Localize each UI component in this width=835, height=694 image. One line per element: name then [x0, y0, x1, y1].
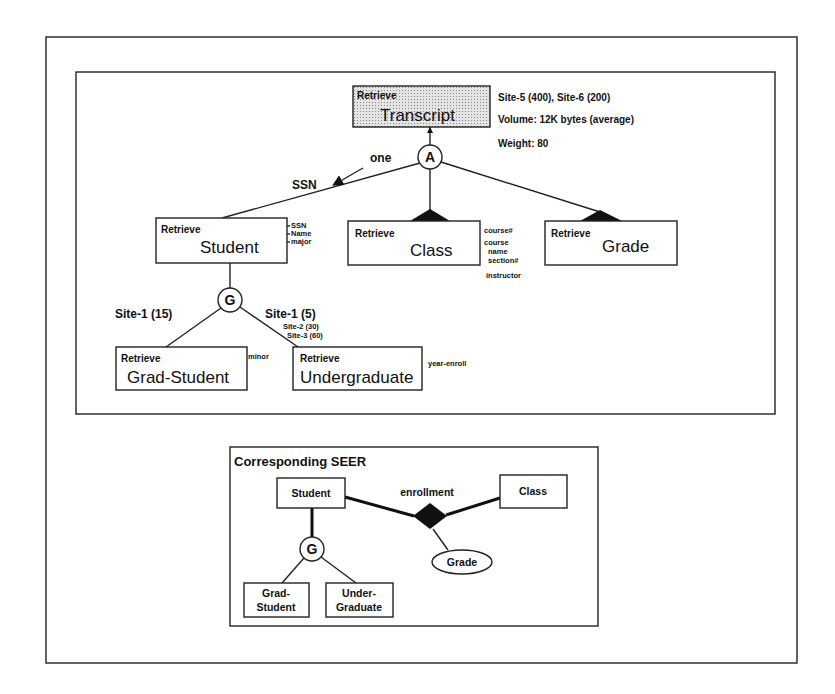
aggregation-symbol: A [425, 149, 435, 165]
student-name: Student [200, 238, 259, 257]
seer-class-label: Class [519, 485, 547, 497]
student-attr-major: major [291, 237, 312, 246]
grade-action: Retrieve [551, 228, 591, 239]
diagram-canvas: Retrieve Transcript Site-5 (400), Site-6… [0, 0, 835, 694]
undergraduate-action: Retrieve [300, 353, 340, 364]
class-attr-course-num: course# [484, 226, 514, 235]
seer-student-label: Student [291, 487, 331, 499]
enrollment-relationship-diamond [413, 503, 447, 529]
class-attr-course: course [484, 238, 509, 247]
seer-under-line2: Graduate [336, 601, 382, 613]
enrollment-to-class-line [446, 498, 500, 515]
grade-cardinality-triangle-icon [580, 210, 622, 221]
aggregation-to-student-line [222, 163, 420, 218]
undergrad-site-label: Site-1 (5) [265, 307, 316, 321]
seer-title: Corresponding SEER [234, 454, 367, 469]
seer-grad-line1: Grad- [262, 587, 291, 599]
grad-student-name: Grad-Student [127, 368, 229, 387]
student-to-enrollment-line [345, 497, 414, 516]
undergraduate-attr-year-enroll: year-enroll [428, 359, 466, 368]
class-attr-instructor: instructor [486, 271, 521, 280]
generalization-symbol: G [225, 292, 236, 308]
student-action: Retrieve [161, 224, 201, 235]
class-attr-section: section# [488, 256, 519, 265]
ssn-arrow-icon [337, 168, 363, 183]
relationship-label: enrollment [400, 486, 454, 498]
class-action: Retrieve [355, 228, 395, 239]
aggregation-label: one [370, 151, 392, 165]
key-label: SSN [292, 178, 317, 192]
class-attr-name: name [488, 247, 508, 256]
grade-attribute-label: Grade [447, 556, 478, 568]
generalization-to-grad-line [166, 308, 221, 347]
aggregation-to-grade-line [441, 162, 600, 212]
seer-under-line1: Under- [342, 587, 376, 599]
enrollment-to-grade-line [433, 529, 448, 550]
undergrad-site-2: Site-2 (30) [283, 322, 319, 331]
grade-name: Grade [602, 237, 649, 256]
transcript-name: Transcript [380, 106, 455, 125]
seer-generalization-to-grad-line [282, 558, 304, 583]
grad-site-label: Site-1 (15) [115, 307, 172, 321]
undergraduate-name: Undergraduate [300, 368, 413, 387]
class-cardinality-triangle-icon [410, 209, 450, 221]
grad-student-action: Retrieve [121, 353, 161, 364]
grad-student-attr-minor: minor [248, 352, 269, 361]
transcript-sites: Site-5 (400), Site-6 (200) [498, 92, 610, 103]
transcript-weight: Weight: 80 [498, 138, 549, 149]
transcript-volume: Volume: 12K bytes (average) [498, 114, 634, 125]
seer-generalization-symbol: G [307, 541, 318, 557]
undergrad-site-3: Site-3 (60) [287, 331, 323, 340]
seer-grad-line2: Student [256, 601, 296, 613]
class-name: Class [410, 241, 453, 260]
transcript-action: Retrieve [357, 90, 397, 101]
transcript-arrow-icon [427, 127, 433, 133]
seer-generalization-to-under-line [321, 557, 356, 583]
